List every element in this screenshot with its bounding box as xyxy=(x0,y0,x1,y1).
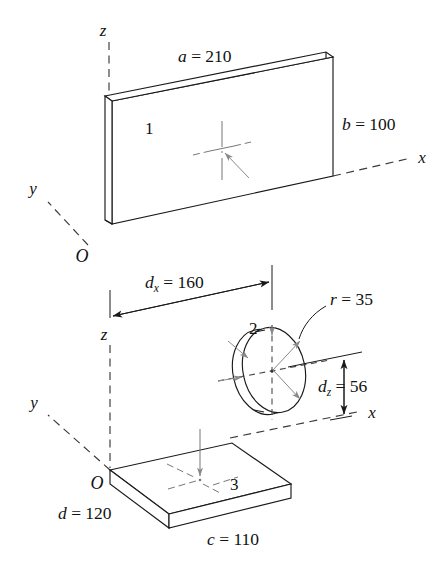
disk-2-group: 2 xyxy=(218,319,330,421)
dimension-a-label: a = 210 xyxy=(178,46,232,66)
part-2-label: 2 xyxy=(249,319,258,338)
dimension-dz-label: dz = 56 xyxy=(318,376,368,398)
upper-x-axis-label: x xyxy=(417,148,426,167)
disk-2-contour-arrow-left xyxy=(218,377,242,381)
lower-z-axis: z xyxy=(100,325,110,468)
lower-figure-group: dx = 160 z y x xyxy=(28,265,376,549)
upper-figure-group: z y x xyxy=(27,21,426,266)
upper-x-axis: x xyxy=(333,148,426,176)
part-3-label: 3 xyxy=(230,475,239,494)
diagram-canvas: z y x xyxy=(0,0,433,563)
dimension-b-label: b = 100 xyxy=(342,114,396,134)
dimension-dx-label: dx = 160 xyxy=(145,272,204,294)
upper-z-axis: z xyxy=(99,21,109,104)
lower-y-axis: y xyxy=(28,393,110,470)
dimension-r-label: r = 35 xyxy=(330,289,373,309)
upper-origin-label: O xyxy=(76,246,89,266)
upper-z-axis-label: z xyxy=(99,21,107,40)
upper-y-axis-label: y xyxy=(27,179,37,198)
lower-origin-label: O xyxy=(91,473,104,493)
upper-y-axis: y xyxy=(27,179,88,245)
lower-y-axis-label: y xyxy=(28,393,38,412)
dimension-r-leader xyxy=(299,306,326,339)
dimension-d-label: d = 120 xyxy=(58,503,112,523)
dimension-c-label: c = 110 xyxy=(207,529,259,549)
dimension-dx-group: dx = 160 xyxy=(110,265,272,318)
part-1-label: 1 xyxy=(145,119,154,138)
plate1-left-face xyxy=(105,96,112,224)
engineering-diagram: z y x xyxy=(0,0,433,563)
lower-z-axis-label: z xyxy=(100,325,108,344)
plate-3-group: 3 xyxy=(110,429,291,528)
dimension-r-group: r = 35 xyxy=(299,289,373,339)
lower-x-axis-label: x xyxy=(367,403,376,422)
